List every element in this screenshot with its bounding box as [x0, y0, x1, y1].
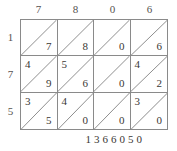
left-digit-0: 1 — [2, 19, 19, 56]
left-digit-2: 5 — [2, 93, 19, 130]
left-multiplier-labels: 1 7 5 — [2, 19, 19, 130]
cell-tens-r2c1: 4 — [62, 93, 68, 110]
top-digit-2: 0 — [94, 1, 131, 18]
lattice-multiplication-figure: 7 8 0 6 1 7 5 7 8 0 6 — [0, 0, 177, 151]
cell-ones-r1c3: 2 — [157, 75, 163, 92]
cell-ones-r2c3: 0 — [157, 112, 163, 129]
lattice-cell-r2c1: 4 0 — [58, 93, 95, 129]
result-digit-1: 3 — [93, 131, 102, 147]
result-digit-4: 0 — [118, 131, 127, 147]
lattice-cell-r1c0: 4 9 — [21, 56, 58, 92]
lattice-cell-r0c1: 8 — [58, 20, 95, 56]
cell-ones-r0c1: 8 — [83, 38, 89, 55]
left-digit-1: 7 — [2, 56, 19, 93]
cell-ones-r2c1: 0 — [83, 112, 89, 129]
lattice-cell-r2c2: 0 — [94, 93, 131, 129]
result-digit-2: 6 — [101, 131, 110, 147]
cell-tens-r2c3: 3 — [135, 93, 141, 110]
lattice-cell-r0c3: 6 — [131, 20, 168, 56]
lattice-cell-r2c3: 3 0 — [131, 93, 168, 129]
cell-ones-r1c0: 9 — [46, 75, 52, 92]
result-digit-5: 5 — [127, 131, 136, 147]
lattice-cell-r1c3: 4 2 — [131, 56, 168, 92]
cell-ones-r0c0: 7 — [46, 38, 52, 55]
product-result-row: 1 3 6 6 0 5 0 — [84, 131, 170, 147]
lattice-cell-r2c0: 3 5 — [21, 93, 58, 129]
lattice-cell-r1c1: 5 6 — [58, 56, 95, 92]
result-digit-3: 6 — [110, 131, 119, 147]
top-multiplicand-labels: 7 8 0 6 — [20, 1, 168, 18]
cell-tens-r1c0: 4 — [25, 56, 31, 73]
top-digit-0: 7 — [20, 1, 57, 18]
cell-ones-r1c1: 6 — [83, 75, 89, 92]
cell-ones-r1c2: 0 — [119, 75, 125, 92]
cell-tens-r1c3: 4 — [135, 56, 141, 73]
cell-ones-r2c2: 0 — [119, 112, 125, 129]
result-digit-6: 0 — [135, 131, 144, 147]
lattice-cell-r0c2: 0 — [94, 20, 131, 56]
cell-tens-r1c1: 5 — [62, 56, 68, 73]
top-digit-3: 6 — [131, 1, 168, 18]
result-digit-0: 1 — [84, 131, 93, 147]
lattice-grid: 7 8 0 6 4 9 5 6 — [20, 19, 168, 130]
cell-ones-r2c0: 5 — [46, 112, 52, 129]
cell-tens-r2c0: 3 — [25, 93, 31, 110]
lattice-cell-r1c2: 0 — [94, 56, 131, 92]
cell-ones-r0c3: 6 — [157, 38, 163, 55]
top-digit-1: 8 — [57, 1, 94, 18]
cell-ones-r0c2: 0 — [119, 38, 125, 55]
lattice-cell-r0c0: 7 — [21, 20, 58, 56]
